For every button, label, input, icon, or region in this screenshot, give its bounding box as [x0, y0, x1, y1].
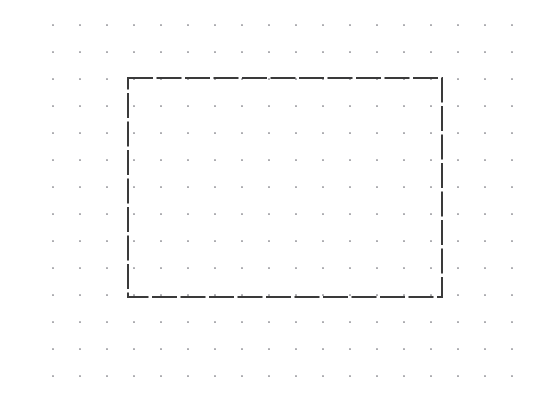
- shape-layer: [0, 0, 560, 402]
- dashed-rectangle[interactable]: [128, 78, 442, 297]
- dot-grid-canvas[interactable]: [0, 0, 560, 402]
- shapes-svg: [0, 0, 560, 402]
